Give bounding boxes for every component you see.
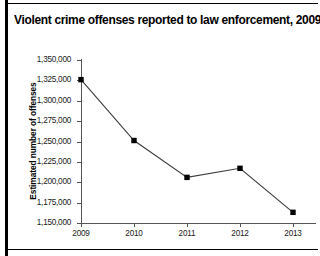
plot-area: Estimated number of offenses 1,150,000 1… [0,0,320,256]
data-point-marker [237,166,242,171]
series-markers [78,77,295,215]
data-point-marker [184,175,189,180]
x-axis-ticks [82,223,294,227]
chart-figure: Violent crime offenses reported to law e… [0,0,320,256]
data-point-marker [131,138,136,143]
axis-lines [81,59,316,223]
series-line [81,80,293,213]
y-axis-ticks [77,61,81,224]
plot-svg [0,0,320,256]
data-point-marker [290,210,295,215]
data-point-marker [78,77,83,82]
